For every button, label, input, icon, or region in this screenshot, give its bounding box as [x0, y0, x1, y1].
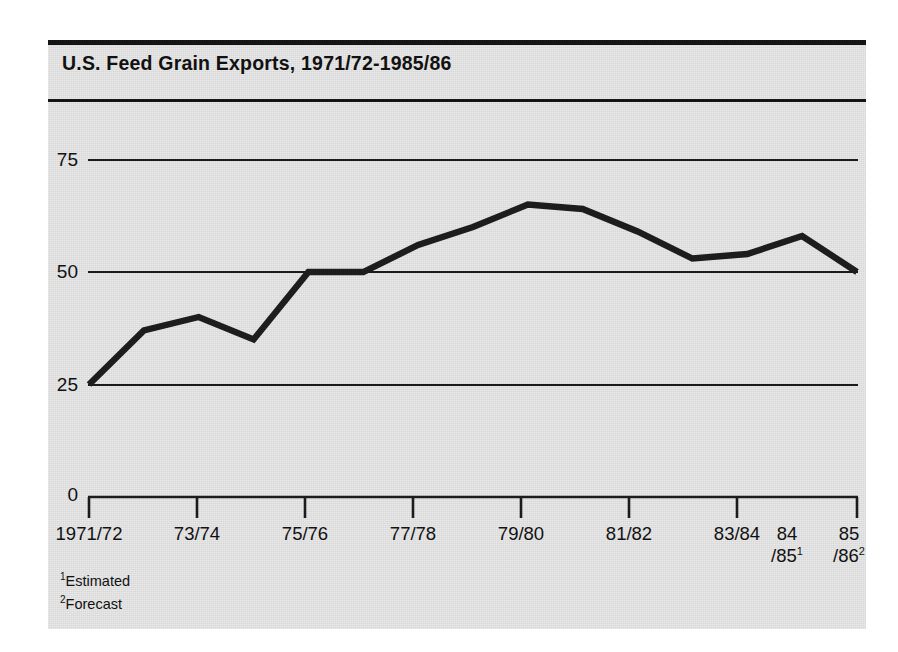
chart-figure: U.S. Feed Grain Exports, 1971/72-1985/86…: [0, 0, 898, 652]
x-axis-label-line1: 75/76: [282, 523, 328, 544]
x-axis-label-77-78: 77/78: [363, 524, 463, 545]
x-axis-label-footnote-marker: 2: [859, 545, 865, 557]
x-axis-label-84-85: 84 /851: [756, 524, 818, 567]
x-axis-label-line2: /85: [771, 545, 797, 566]
data-series-line: [89, 205, 857, 385]
footnote-text-2: Forecast: [66, 596, 122, 612]
y-axis-label-25: 25: [34, 374, 78, 396]
x-axis-label-line1: 84: [777, 523, 798, 544]
y-axis-label-75: 75: [34, 149, 78, 171]
x-axis-label-79-80: 79/80: [471, 524, 571, 545]
x-axis-label-1971-72: 1971/72: [29, 524, 149, 545]
x-axis-label-line1: 85: [839, 523, 860, 544]
x-axis-label-line1: 83/84: [714, 523, 760, 544]
y-axis-label-50: 50: [34, 261, 78, 283]
x-axis-label-line1: 81/82: [606, 523, 652, 544]
x-axis-label-line1: 79/80: [498, 523, 544, 544]
footnote-text-1: Estimated: [66, 573, 130, 589]
x-axis-label-line1: 73/74: [174, 523, 220, 544]
x-axis-label-line1: 77/78: [390, 523, 436, 544]
y-axis-label-0: 0: [34, 484, 78, 506]
x-axis-label-footnote-marker: 1: [797, 545, 803, 557]
footnote-estimated: 1Estimated: [60, 571, 130, 589]
footnote-forecast: 2Forecast: [60, 594, 122, 612]
x-axis-label-73-74: 73/74: [147, 524, 247, 545]
x-axis-label-line2: /86: [833, 545, 859, 566]
x-axis-label-85-86: 85 /862: [818, 524, 880, 567]
x-axis-label-81-82: 81/82: [579, 524, 679, 545]
x-axis-label-line1: 1971/72: [56, 523, 123, 544]
x-axis-label-75-76: 75/76: [255, 524, 355, 545]
